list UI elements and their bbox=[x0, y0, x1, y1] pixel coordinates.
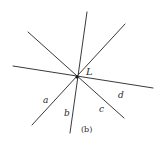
pencil-of-lines-figure: L d c b a (b) bbox=[0, 0, 167, 141]
point-l-label: L bbox=[85, 66, 93, 77]
line-a bbox=[32, 24, 125, 125]
line-c-label: c bbox=[99, 104, 104, 114]
line-b-label: b bbox=[64, 108, 70, 118]
point-l bbox=[75, 75, 78, 78]
figure-caption: (b) bbox=[81, 125, 92, 134]
diagram-canvas: L d c b a (b) bbox=[0, 0, 167, 141]
line-a-label: a bbox=[43, 95, 48, 105]
line-c bbox=[28, 32, 124, 118]
line-d-label: d bbox=[118, 90, 124, 100]
